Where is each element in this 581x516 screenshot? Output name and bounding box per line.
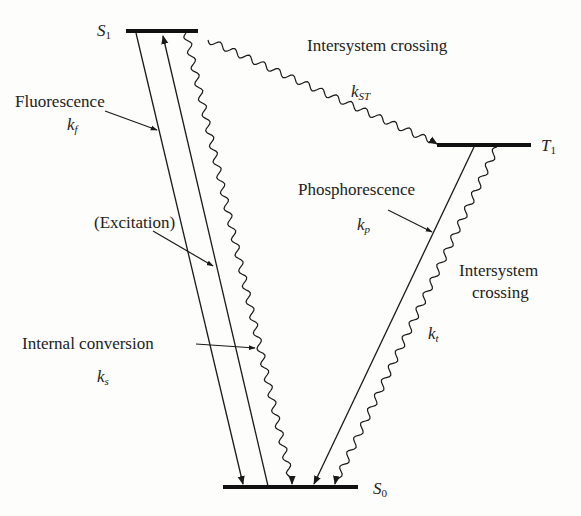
level-s0-label: S0 — [373, 480, 387, 499]
phosphorescence-pointer — [388, 210, 432, 232]
diagram-graphics — [0, 0, 581, 516]
excitation-label: (Excitation) — [94, 214, 175, 231]
internal-conversion-label: Internal conversion — [22, 335, 154, 352]
kst-symbol: k — [351, 82, 359, 101]
intersystem-crossing-st-wavy-arrow — [208, 40, 437, 144]
fluorescence-rate-label: kf — [67, 116, 78, 135]
internal-conversion-rate-label: ks — [97, 368, 109, 387]
level-s1-label: S1 — [97, 22, 111, 41]
kst-subscript: ST — [359, 90, 371, 102]
level-s1-subscript: 1 — [106, 29, 112, 41]
kp-symbol: k — [357, 215, 365, 234]
intersystem-crossing-t-rate-label: kt — [428, 325, 439, 344]
jablonski-diagram: S1 T1 S0 Fluorescence kf (Excitation) In… — [0, 0, 581, 516]
intersystem-crossing-st-label: Intersystem crossing — [307, 37, 447, 54]
level-s0-symbol: S — [373, 479, 382, 498]
fluorescence-label: Fluorescence — [15, 93, 105, 110]
kt-subscript: t — [436, 332, 439, 344]
level-t1-label: T1 — [541, 137, 556, 156]
kf-symbol: k — [67, 115, 75, 134]
intersystem-crossing-t-label-line1: Intersystem — [459, 262, 538, 279]
kt-symbol: k — [428, 324, 436, 343]
excitation-pointer — [153, 231, 213, 266]
kp-subscript: p — [365, 223, 371, 235]
phosphorescence-label: Phosphorescence — [298, 181, 415, 198]
kf-subscript: f — [75, 123, 78, 135]
fluorescence-pointer — [105, 111, 157, 130]
ks-symbol: k — [97, 367, 105, 386]
level-s1-symbol: S — [97, 21, 106, 40]
fluorescence-arrow — [136, 33, 243, 484]
intersystem-crossing-st-rate-label: kST — [351, 83, 370, 102]
ks-subscript: s — [105, 375, 109, 387]
level-s0-subscript: 0 — [382, 487, 388, 499]
internal-conversion-pointer — [196, 344, 255, 348]
intersystem-crossing-t-label-line2: crossing — [472, 284, 529, 301]
level-t1-subscript: 1 — [550, 144, 556, 156]
phosphorescence-rate-label: kp — [357, 216, 370, 235]
excitation-arrow — [163, 36, 268, 486]
